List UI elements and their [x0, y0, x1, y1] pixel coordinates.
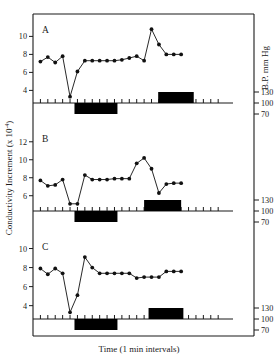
lower-stimulus-bar-A [74, 103, 117, 114]
data-point-A-8 [90, 59, 94, 63]
data-point-A-19 [172, 53, 176, 57]
data-point-C-19 [172, 269, 176, 273]
data-point-B-14 [135, 161, 139, 165]
data-point-C-18 [164, 269, 168, 273]
ytick-label-C-8: 8 [23, 264, 27, 273]
data-point-B-13 [127, 177, 131, 181]
data-point-C-1 [39, 267, 43, 271]
ytick-label-C-6: 6 [23, 283, 27, 292]
data-point-A-9 [98, 59, 102, 63]
bp-tick-label-B-70: 70 [261, 218, 269, 227]
ytick-label-A-8: 8 [23, 50, 27, 59]
ytick-label-B-10: 10 [19, 156, 27, 165]
data-point-B-17 [157, 191, 161, 195]
bp-tick-label-A-100: 100 [261, 99, 273, 108]
data-point-C-15 [142, 275, 146, 279]
data-point-C-2 [46, 272, 50, 276]
data-point-B-20 [179, 181, 183, 185]
data-point-A-18 [164, 53, 168, 57]
bp-tick-label-B-100: 100 [261, 207, 273, 216]
data-point-C-9 [98, 271, 102, 275]
data-point-A-14 [135, 54, 139, 58]
bp-tick-label-C-100: 100 [261, 315, 273, 324]
data-point-C-3 [53, 267, 57, 271]
data-point-A-16 [150, 27, 154, 31]
data-point-B-18 [164, 182, 168, 186]
panel-label-A: A [42, 25, 49, 35]
data-point-A-20 [179, 53, 183, 57]
conductivity-blood-pressure-figure: A1086413010070B12108613010070C1086413010… [0, 0, 278, 357]
bp-tick-label-C-130: 130 [261, 304, 273, 313]
data-point-A-10 [105, 59, 109, 63]
data-point-A-4 [61, 54, 65, 58]
data-point-B-16 [150, 167, 154, 171]
data-point-C-12 [120, 271, 124, 275]
ytick-label-A-10: 10 [19, 32, 27, 41]
data-point-B-7 [83, 173, 87, 177]
upper-stimulus-bar-B [144, 200, 181, 211]
data-point-C-4 [61, 271, 65, 275]
bp-tick-label-A-70: 70 [261, 110, 269, 119]
lower-stimulus-bar-C [74, 319, 117, 330]
ytick-label-B-8: 8 [23, 174, 27, 183]
data-point-C-8 [90, 266, 94, 270]
panel-label-B: B [42, 134, 48, 144]
bp-tick-label-C-70: 70 [261, 326, 269, 335]
ytick-label-A-6: 6 [23, 68, 27, 77]
lower-stimulus-bar-B [74, 211, 117, 222]
ytick-label-B-12: 12 [19, 138, 27, 147]
data-point-C-6 [76, 293, 80, 297]
data-point-B-6 [76, 202, 80, 206]
y-axis-title: Conductivity Increment (x 10-4) [4, 121, 14, 235]
data-point-B-19 [172, 181, 176, 185]
data-point-B-3 [53, 183, 57, 187]
data-point-C-7 [83, 255, 87, 259]
data-point-C-11 [113, 271, 117, 275]
x-axis-title: Time (1 min intervals) [99, 344, 180, 354]
data-point-A-6 [76, 70, 80, 74]
data-point-B-5 [68, 202, 72, 206]
data-point-A-5 [68, 95, 72, 99]
data-point-C-16 [150, 275, 154, 279]
data-point-A-12 [120, 58, 124, 62]
data-point-A-2 [46, 55, 50, 59]
data-point-B-10 [105, 178, 109, 182]
data-point-A-3 [53, 61, 57, 65]
data-point-B-8 [90, 178, 94, 182]
data-point-B-15 [142, 156, 146, 160]
ytick-label-B-6: 6 [23, 192, 27, 201]
data-line-C [40, 257, 181, 312]
figure-container: A1086413010070B12108613010070C1086413010… [0, 0, 278, 357]
ytick-label-A-4: 4 [23, 86, 27, 95]
bp-tick-label-B-130: 130 [261, 196, 273, 205]
data-point-B-11 [113, 177, 117, 181]
data-point-C-17 [157, 275, 161, 279]
data-point-B-4 [61, 178, 65, 182]
data-point-A-7 [83, 59, 87, 63]
data-point-C-14 [135, 276, 139, 280]
data-point-B-2 [46, 184, 50, 188]
ytick-label-C-10: 10 [19, 245, 27, 254]
data-point-C-20 [179, 269, 183, 273]
data-point-B-9 [98, 178, 102, 182]
data-point-B-12 [120, 177, 124, 181]
upper-stimulus-bar-C [149, 308, 184, 319]
data-point-A-13 [127, 56, 131, 60]
data-line-A [40, 29, 181, 97]
data-point-A-11 [113, 59, 117, 63]
data-point-C-10 [105, 271, 109, 275]
data-point-B-1 [39, 179, 43, 183]
right-axis-title: B.P. mm Hg [260, 45, 270, 90]
data-point-A-17 [157, 43, 161, 47]
data-point-A-1 [39, 60, 43, 64]
data-point-C-5 [68, 310, 72, 314]
data-point-C-13 [127, 271, 131, 275]
ytick-label-C-4: 4 [23, 302, 27, 311]
upper-stimulus-bar-A [158, 92, 194, 103]
data-point-A-15 [142, 59, 146, 63]
panel-label-C: C [42, 242, 48, 252]
